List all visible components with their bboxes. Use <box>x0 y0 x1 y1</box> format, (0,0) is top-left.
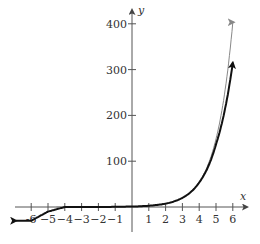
x-axis-label: x <box>240 190 247 203</box>
y-tick-label: 200 <box>106 109 127 122</box>
series-gray-curve <box>56 22 233 207</box>
x-tick-label: 6 <box>229 213 236 226</box>
x-tick-label: 1 <box>145 213 152 226</box>
x-tick-label: 2 <box>162 213 169 226</box>
x-tick-label: −3 <box>73 213 89 226</box>
y-axis-label: y <box>137 4 145 17</box>
x-tick-label: 5 <box>213 213 220 226</box>
chart: -6−5−4−3−2−1123456 100200300400 x y <box>0 0 260 244</box>
x-tick-label: 4 <box>196 213 203 226</box>
x-tick-label: −2 <box>90 213 106 226</box>
x-tick-label: −1 <box>107 213 123 226</box>
y-tick-label: 100 <box>106 155 127 168</box>
series-black-curve <box>16 63 233 221</box>
x-tick-label: 3 <box>179 213 186 226</box>
y-tick-label: 400 <box>106 18 127 31</box>
x-tick-label: −4 <box>57 213 73 226</box>
y-tick-label: 300 <box>106 64 127 77</box>
